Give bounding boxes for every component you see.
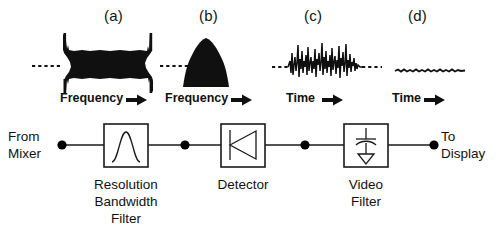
panel-c-noise-trace (288, 43, 362, 78)
detector-label: Detector (203, 177, 283, 192)
input-port-label-line1: From (8, 129, 40, 144)
rbw-filter-label-line2: Bandwidth (78, 194, 174, 209)
panel-tag-a: (a) (104, 8, 123, 25)
panel-tag-c: (c) (304, 8, 322, 25)
node-output (429, 140, 438, 149)
panel-tag-d: (d) (408, 8, 427, 25)
panel-c-axis-label: Time (286, 91, 315, 105)
panel-a-noise-band (63, 33, 153, 93)
input-port-label-line2: Mixer (8, 146, 41, 161)
panel-c-waveform (270, 35, 400, 95)
panel-c-axis-arrow-icon (322, 94, 344, 106)
resolution-bandwidth-filter-box (104, 124, 148, 167)
rbw-filter-label-line1: Resolution (78, 177, 174, 192)
panel-a-right-spike-lower (150, 79, 153, 93)
spectrum-analyzer-block-diagram: (a) (b) (c) (d) Frequency Frequency Time (0, 0, 498, 237)
panel-a-left-spike (64, 33, 67, 51)
panel-d-axis-arrow-icon (424, 94, 446, 106)
panel-b-waveform (170, 27, 260, 97)
panel-a-right-spike (150, 33, 153, 51)
panel-d-waveform (385, 50, 495, 90)
node-after-detector (300, 140, 309, 149)
node-after-rbw (180, 140, 189, 149)
detector-box (221, 124, 265, 167)
panel-b-axis-arrow-icon (231, 94, 253, 106)
panel-a-waveform (30, 27, 190, 97)
output-port-label-line1: To (441, 129, 455, 144)
panel-b-bell-curve (183, 38, 229, 87)
panel-b-axis-label: Frequency (165, 91, 228, 105)
video-filter-label-line2: Filter (326, 194, 406, 209)
video-filter-label-line1: Video (326, 177, 406, 192)
output-port-label-line2: Display (441, 146, 485, 161)
panel-d-smoothed-trace (395, 70, 465, 72)
signal-chain (0, 118, 498, 208)
panel-a-axis-arrow-icon (126, 94, 148, 106)
panel-d-axis-label: Time (392, 91, 421, 105)
node-input (57, 140, 66, 149)
panel-tag-b: (b) (199, 8, 218, 25)
panel-a-axis-label: Frequency (60, 91, 123, 105)
rbw-filter-label-line3: Filter (78, 211, 174, 226)
